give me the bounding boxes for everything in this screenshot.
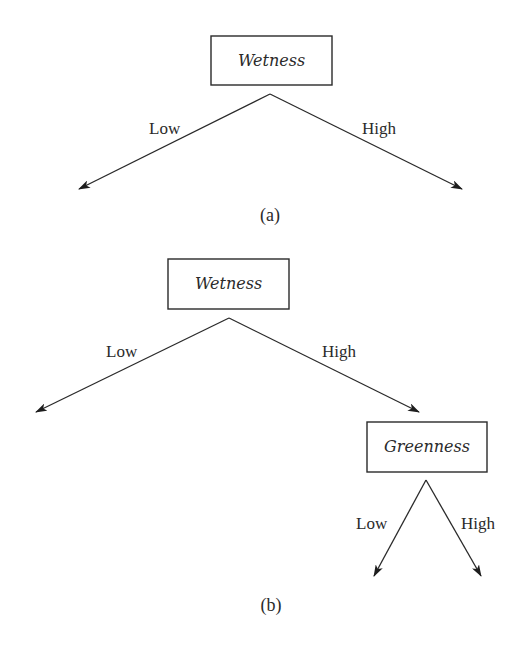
edge-high-arrow-a [270,94,462,189]
edge-low-arrow-a [79,94,270,189]
edge-label-low-b: Low [106,342,138,361]
edge-low-arrow-b [36,318,229,412]
edge-label-low-a: Low [149,119,181,138]
edge-label-greenness-high: High [461,514,496,533]
edge-label-greenness-low: Low [356,514,388,533]
node-wetness-b: Wetness [168,259,289,309]
edge-label-high-a: High [362,119,397,138]
node-wetness-a: Wetness [211,36,332,85]
edge-high-arrow-b [229,318,419,412]
caption-b: (b) [261,595,282,616]
node-label-wetness-a: Wetness [238,51,305,70]
edge-label-high-b: High [322,342,357,361]
node-label-greenness: Greenness [384,437,470,456]
tree-b: Wetness Low High Greenness Low High (b) [36,259,496,616]
caption-a: (a) [260,205,280,226]
decision-tree-figure: Wetness Low High (a) Wetness Low High Gr… [0,0,528,645]
tree-a: Wetness Low High (a) [79,36,462,226]
node-label-wetness-b: Wetness [195,274,262,293]
node-greenness: Greenness [367,422,487,472]
